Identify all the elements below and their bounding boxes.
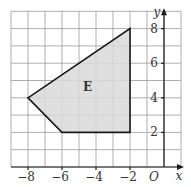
y-tick-label: 6 [150,56,158,70]
y-axis-label: y [153,5,161,19]
x-tick-label: −2 [119,170,137,184]
x-axis-label: x [176,169,183,183]
x-tick-label: −6 [51,170,69,184]
shape-label: E [83,80,92,94]
origin-label: O [149,170,159,184]
y-tick-label: 8 [150,22,158,36]
y-tick-label: 4 [150,91,158,105]
y-tick-label: 2 [150,125,158,139]
y-axis-arrow-icon [161,8,167,15]
x-tick-label: −8 [17,170,35,184]
coordinate-grid-figure: −8−6−4−22468 E x y O [0,0,191,187]
x-tick-label: −4 [85,170,103,184]
